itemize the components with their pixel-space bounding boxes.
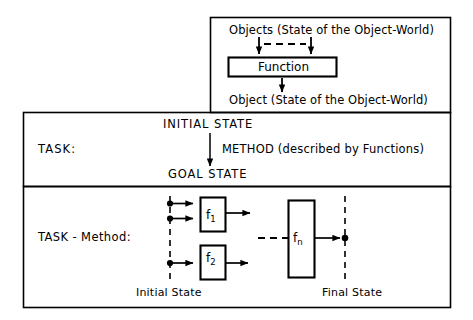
final-state-node <box>342 235 349 242</box>
task-row-label: TASK: <box>38 144 76 156</box>
f1-subscript: 1 <box>210 214 215 224</box>
initial-state-axis-label: Initial State <box>136 287 202 298</box>
function-box-fn-label: fn <box>293 231 303 247</box>
method-label: METHOD (described by Functions) <box>222 144 424 156</box>
function-box-f1-label: f1 <box>206 208 216 224</box>
function-box-f2-label: f2 <box>206 251 216 267</box>
final-state-axis-label: Final State <box>322 287 382 298</box>
task-method-panel-frame <box>24 187 451 308</box>
f2-subscript: 2 <box>210 257 215 267</box>
function-box-label: Function <box>258 61 309 73</box>
diagram-canvas <box>0 0 473 320</box>
task-method-row-label: TASK - Method: <box>38 232 131 244</box>
function-input-label: Objects (State of the Object-World) <box>229 25 434 37</box>
function-output-label: Object (State of the Object-World) <box>229 95 428 107</box>
fn-subscript: n <box>297 237 302 247</box>
diagram-root: Objects (State of the Object-World) Func… <box>0 0 473 320</box>
goal-state-label: GOAL STATE <box>168 169 247 181</box>
task-method-panel-graphics <box>167 196 348 284</box>
panel-frames <box>24 18 451 308</box>
initial-state-label: INITIAL STATE <box>163 119 253 131</box>
